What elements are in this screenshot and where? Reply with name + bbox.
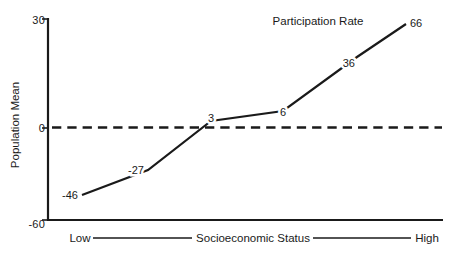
data-point-label: 3 [208,112,214,124]
chart-figure: -46-27363666 30 0 -60 Population Mean Pa… [0,0,461,256]
y-axis-title: Population Mean [9,82,21,168]
chart-canvas: -46-27363666 [0,0,461,256]
x-axis-title: Socioeconomic Status [196,232,310,244]
data-point-label: -46 [62,189,78,201]
y-tick-label-neg60: -60 [3,218,45,231]
data-point-label: 36 [343,57,355,69]
data-point-label: 66 [410,17,422,29]
data-point-label: -27 [128,164,144,176]
x-axis-endpoint-low: Low [69,232,90,244]
data-point-label: 6 [280,106,286,118]
x-axis-endpoint-high: High [415,232,439,244]
y-tick-label-30: 30 [3,14,45,27]
series-label-annotation: Participation Rate [273,15,364,27]
